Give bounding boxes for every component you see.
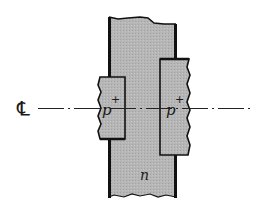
n-label: n xyxy=(140,167,149,183)
centerline-symbol: ℄ xyxy=(16,97,30,121)
diagram-canvas: ℄ p + p + n xyxy=(0,0,262,206)
right-plus-superscript: + xyxy=(175,93,184,106)
left-plus-superscript: + xyxy=(111,93,120,106)
